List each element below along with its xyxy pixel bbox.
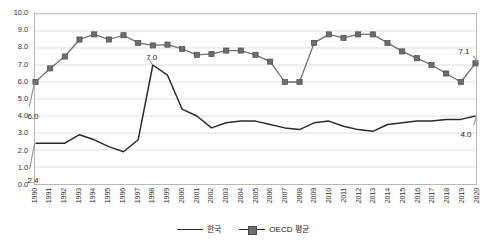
point-label-korea-end: 4.0 xyxy=(461,130,472,139)
series-line-1 xyxy=(35,34,475,82)
x-tick-label: 2010 xyxy=(325,188,333,203)
legend-label-korea: 한국 xyxy=(207,225,221,234)
data-point-marker xyxy=(385,40,390,45)
y-tick-label: 3.0 xyxy=(18,129,28,137)
x-tick-label: 2009 xyxy=(310,188,318,203)
x-tick-label: 2020 xyxy=(473,188,481,203)
x-tick-label: 1991 xyxy=(45,188,53,203)
x-tick-label: 2013 xyxy=(369,188,377,203)
data-point-marker xyxy=(326,32,331,37)
data-point-marker xyxy=(194,52,199,57)
data-point-marker xyxy=(282,79,287,84)
point-label-oecd-start: 6.0 xyxy=(28,112,39,121)
x-axis: 1990199119921993199419951996199719981999… xyxy=(34,186,477,220)
data-point-marker xyxy=(253,52,258,57)
data-point-marker xyxy=(414,56,419,61)
data-point-marker xyxy=(268,59,273,64)
x-tick-label: 2015 xyxy=(399,188,407,203)
data-point-marker xyxy=(48,66,53,71)
plot-area xyxy=(34,13,477,185)
data-point-marker xyxy=(77,37,82,42)
x-tick-label: 1990 xyxy=(31,188,39,203)
data-point-marker xyxy=(224,48,229,53)
point-label-korea-start: 2.4 xyxy=(28,176,39,185)
y-tick-label: 8.0 xyxy=(18,43,28,51)
x-tick-label: 2006 xyxy=(266,188,274,203)
data-point-marker xyxy=(312,40,317,45)
data-point-marker xyxy=(92,32,97,37)
x-tick-label: 2002 xyxy=(207,188,215,203)
data-point-marker xyxy=(106,37,111,42)
data-point-marker xyxy=(444,71,449,76)
legend-item-korea[interactable]: 한국 xyxy=(177,225,221,235)
x-tick-label: 1992 xyxy=(60,188,68,203)
y-tick-label: 1.0 xyxy=(18,164,28,172)
y-tick-label: 2.0 xyxy=(18,147,28,155)
x-tick-label: 1997 xyxy=(134,188,142,203)
x-tick-label: 2000 xyxy=(178,188,186,203)
series-line-0 xyxy=(35,65,475,152)
x-tick-label: 1998 xyxy=(148,188,156,203)
data-point-marker xyxy=(209,51,214,56)
legend-line-square-icon xyxy=(239,225,265,235)
point-label-oecd-end: 7.1 xyxy=(459,47,470,56)
data-point-marker xyxy=(136,40,141,45)
data-point-marker xyxy=(458,79,463,84)
data-point-marker xyxy=(341,35,346,40)
x-tick-label: 2003 xyxy=(222,188,230,203)
legend-item-oecd-average[interactable]: OECD 평균 xyxy=(239,225,308,235)
data-point-marker xyxy=(356,32,361,37)
x-tick-label: 2007 xyxy=(281,188,289,203)
data-point-marker xyxy=(62,54,67,59)
x-tick-label: 2004 xyxy=(237,188,245,203)
x-tick-label: 2019 xyxy=(458,188,466,203)
data-point-marker xyxy=(121,33,126,38)
y-tick-label: 6.0 xyxy=(18,78,28,86)
x-tick-label: 2011 xyxy=(340,188,348,203)
x-tick-label: 2018 xyxy=(443,188,451,203)
x-tick-label: 1995 xyxy=(104,188,112,203)
data-point-marker xyxy=(150,43,155,48)
y-tick-label: 4.0 xyxy=(18,112,28,120)
x-tick-label: 2001 xyxy=(193,188,201,203)
point-label-korea-peak: 7.0 xyxy=(146,53,157,62)
data-point-marker xyxy=(180,46,185,51)
x-tick-label: 2008 xyxy=(296,188,304,203)
line-chart: 10.09.08.07.06.05.04.03.02.01.00.0 19901… xyxy=(0,0,486,240)
chart-legend: 한국 OECD 평균 xyxy=(0,219,486,240)
series-canvas xyxy=(35,14,476,184)
data-point-marker xyxy=(429,62,434,67)
legend-line-icon xyxy=(177,225,203,235)
x-tick-label: 2012 xyxy=(355,188,363,203)
x-tick-label: 1993 xyxy=(75,188,83,203)
x-tick-label: 1996 xyxy=(119,188,127,203)
y-tick-label: 9.0 xyxy=(18,26,28,34)
data-point-marker xyxy=(370,32,375,37)
x-tick-label: 2014 xyxy=(384,188,392,203)
y-tick-label: 10.0 xyxy=(14,9,28,17)
x-tick-label: 1999 xyxy=(163,188,171,203)
y-tick-label: 7.0 xyxy=(18,61,28,69)
y-tick-label: 5.0 xyxy=(18,95,28,103)
x-tick-label: 2017 xyxy=(428,188,436,203)
data-point-marker xyxy=(297,79,302,84)
y-axis: 10.09.08.07.06.05.04.03.02.01.00.0 xyxy=(0,13,32,185)
data-point-marker xyxy=(165,42,170,47)
x-tick-label: 1994 xyxy=(89,188,97,203)
legend-label-oecd-average: OECD 평균 xyxy=(269,225,308,234)
data-point-marker xyxy=(238,48,243,53)
data-point-marker xyxy=(400,49,405,54)
x-tick-label: 2016 xyxy=(414,188,422,203)
y-tick-label: 0.0 xyxy=(18,181,28,189)
x-tick-label: 2005 xyxy=(252,188,260,203)
